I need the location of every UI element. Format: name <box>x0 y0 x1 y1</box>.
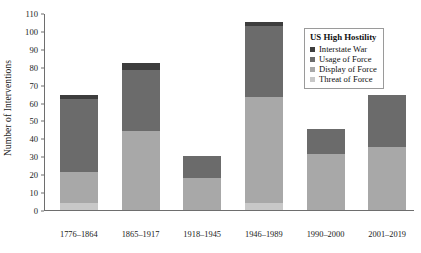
y-tick-mark <box>41 49 44 50</box>
legend-entry: Display of Force <box>310 64 377 74</box>
bar-segment <box>183 156 221 177</box>
bar-segment <box>122 63 160 70</box>
y-tick-mark <box>41 85 44 86</box>
y-tick-label: 60 <box>6 99 38 109</box>
bar-stack <box>245 13 283 210</box>
y-tick-label: 10 <box>6 188 38 198</box>
bar-segment <box>122 70 160 131</box>
x-axis-line <box>44 210 414 211</box>
legend-entry-label: Usage of Force <box>319 54 372 64</box>
bar-stack <box>122 13 160 210</box>
x-tick-label: 1918–1945 <box>183 230 221 239</box>
y-tick-label: 70 <box>6 81 38 91</box>
y-tick-label: 100 <box>6 27 38 37</box>
y-tick-mark <box>41 175 44 176</box>
legend-swatch-icon <box>310 67 315 72</box>
legend-swatch-icon <box>310 57 315 62</box>
bar-segment <box>368 95 406 147</box>
y-tick-label: 40 <box>6 134 38 144</box>
y-axis-line <box>44 14 45 211</box>
bar-segment <box>245 22 283 26</box>
x-tick-label: 2001–2019 <box>368 230 406 239</box>
bar-segment <box>245 97 283 203</box>
legend-entry-label: Display of Force <box>319 64 377 74</box>
bar-stack <box>183 13 221 210</box>
y-tick-label: 0 <box>6 206 38 216</box>
bar-segment <box>60 95 98 99</box>
legend-entry: Interstate War <box>310 44 377 54</box>
stacked-bar-chart: Number of Interventions 0102030405060708… <box>0 0 421 253</box>
bar-segment <box>307 154 345 210</box>
y-tick-mark <box>41 121 44 122</box>
y-tick-label: 80 <box>6 63 38 73</box>
legend: US High Hostility Interstate WarUsage of… <box>304 28 384 89</box>
bar-segment <box>307 129 345 154</box>
y-tick-label: 90 <box>6 45 38 55</box>
bar-segment <box>245 203 283 210</box>
y-tick-label: 110 <box>6 9 38 19</box>
x-tick-label: 1990–2000 <box>307 230 345 239</box>
legend-title: US High Hostility <box>310 32 377 42</box>
x-tick-label: 1946–1989 <box>245 230 283 239</box>
y-tick-mark <box>41 14 44 15</box>
legend-entries: Interstate WarUsage of ForceDisplay of F… <box>310 44 377 84</box>
legend-entry: Threat of Force <box>310 74 377 84</box>
bar-stack <box>60 13 98 210</box>
legend-swatch-icon <box>310 47 315 52</box>
y-tick-mark <box>41 157 44 158</box>
y-tick-mark <box>41 103 44 104</box>
bar-segment <box>183 178 221 210</box>
legend-entry: Usage of Force <box>310 54 377 64</box>
bar-segment <box>122 131 160 210</box>
legend-swatch-icon <box>310 77 315 82</box>
y-tick-mark <box>41 193 44 194</box>
y-tick-mark <box>41 211 44 212</box>
y-tick-mark <box>41 67 44 68</box>
y-tick-label: 50 <box>6 116 38 126</box>
bar-segment <box>60 203 98 210</box>
bar-segment <box>60 99 98 172</box>
bar-segment <box>368 147 406 210</box>
legend-entry-label: Interstate War <box>319 44 367 54</box>
y-tick-mark <box>41 139 44 140</box>
x-tick-label: 1776–1864 <box>60 230 98 239</box>
y-tick-label: 20 <box>6 170 38 180</box>
legend-entry-label: Threat of Force <box>319 74 372 84</box>
bar-segment <box>245 26 283 98</box>
x-tick-label: 1865–1917 <box>122 230 160 239</box>
y-tick-label: 30 <box>6 152 38 162</box>
y-tick-mark <box>41 31 44 32</box>
bar-segment <box>60 172 98 202</box>
